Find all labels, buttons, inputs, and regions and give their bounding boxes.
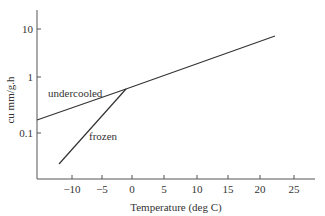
x-tick-label: 20 [255,183,267,195]
x-tick-label: −10 [63,183,81,195]
y-tick-label: 10 [22,23,34,35]
y-ticks: 10 1 0.1 [19,23,41,139]
x-ticks: −10 −5 0 5 10 15 20 25 [63,175,300,195]
x-tick-label: 15 [223,183,235,195]
x-tick-label: 10 [192,183,204,195]
y-tick-label: 1 [28,71,34,83]
series-undercooled-line [37,36,275,120]
x-tick-label: 25 [289,183,301,195]
x-axis-title: Temperature (deg C) [130,201,222,214]
series-label-frozen: frozen [89,130,118,142]
x-tick-label: 5 [161,183,167,195]
series-label-undercooled: undercooled [48,87,103,99]
x-tick-label: −5 [96,183,108,195]
x-tick-label: 0 [129,183,135,195]
y-tick-label: 0.1 [19,127,33,139]
chart: 10 1 0.1 −10 −5 0 5 10 15 20 25 Temperat… [0,0,325,216]
y-axis-title: cu mm/g.h [4,76,16,124]
